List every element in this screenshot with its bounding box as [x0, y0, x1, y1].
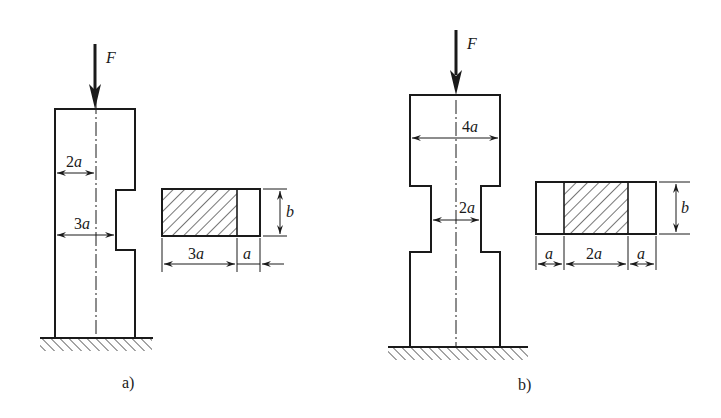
section-a-3a-label: 3a	[188, 245, 204, 262]
figure-b-caption: b)	[518, 376, 531, 394]
column-outline	[55, 109, 135, 338]
column-outline	[410, 95, 500, 347]
dim-3a-label: 3a	[74, 215, 90, 232]
section-a-a-label: a	[243, 245, 251, 262]
figure-a-caption: a)	[122, 374, 134, 392]
dim-2a-label: 2a	[66, 153, 82, 170]
force-label: F	[105, 49, 116, 66]
section-b-left-a-label: a	[545, 245, 553, 262]
section-b-right-a-label: a	[637, 245, 645, 262]
ground-support	[388, 347, 528, 360]
force-label: F	[466, 35, 477, 52]
cross-section-a: 3a a b	[162, 189, 294, 272]
figure-b: F 4a 2a	[388, 30, 690, 394]
force-arrow-icon	[89, 44, 101, 109]
diagram-canvas: F 2a 3a 3a	[0, 0, 721, 418]
figure-a: F 2a 3a 3a	[40, 44, 294, 392]
section-b-2a-label: 2a	[586, 245, 602, 262]
dim-4a-label: 4a	[462, 118, 478, 135]
dim-2a-label: 2a	[459, 199, 475, 216]
section-a-b-label: b	[286, 203, 294, 220]
force-arrow-icon	[450, 30, 462, 95]
ground-support	[40, 338, 153, 351]
section-b-b-label: b	[681, 199, 689, 216]
cross-section-b: a 2a a b	[536, 182, 690, 270]
